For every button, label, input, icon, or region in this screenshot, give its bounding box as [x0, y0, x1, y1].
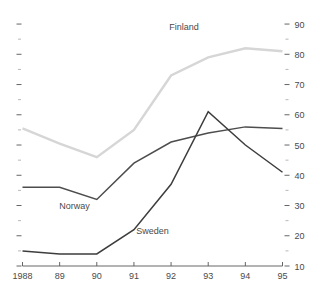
- x-tick-labels: 198889909192939495: [12, 271, 287, 281]
- series-label-norway: Norway: [59, 201, 90, 211]
- series-label-sweden: Sweden: [136, 226, 169, 236]
- y-tick-label: 80: [295, 50, 305, 60]
- series-label-finland: Finland: [169, 22, 199, 32]
- y-tick-label: 20: [295, 231, 305, 241]
- x-tick-label: 91: [129, 271, 139, 281]
- y-tick-labels: 908070605040302010: [295, 20, 305, 272]
- y-tick-label: 70: [295, 80, 305, 90]
- y-tick-label: 90: [295, 20, 305, 30]
- x-tick-label: 1988: [12, 271, 32, 281]
- x-tick-label: 94: [240, 271, 250, 281]
- line-chart: 198889909192939495 908070605040302010 Fi…: [0, 0, 328, 294]
- x-tick-label: 93: [203, 271, 213, 281]
- series-line-norway: [23, 127, 283, 200]
- data-series-group: [23, 48, 283, 254]
- left-axis: [17, 24, 22, 266]
- x-tick-label: 89: [55, 271, 65, 281]
- x-tick-label: 95: [277, 271, 287, 281]
- y-tick-label: 40: [295, 171, 305, 181]
- right-axis: [285, 24, 290, 266]
- y-tick-label: 60: [295, 110, 305, 120]
- series-labels-group: FinlandNorwaySweden: [59, 22, 199, 236]
- x-tick-label: 90: [92, 271, 102, 281]
- y-tick-label: 30: [295, 201, 305, 211]
- chart-plot-area: 198889909192939495 908070605040302010 Fi…: [0, 0, 328, 294]
- x-tick-label: 92: [166, 271, 176, 281]
- y-tick-label: 10: [295, 262, 305, 272]
- series-line-finland: [23, 48, 283, 157]
- y-tick-label: 50: [295, 141, 305, 151]
- x-axis: [23, 262, 283, 266]
